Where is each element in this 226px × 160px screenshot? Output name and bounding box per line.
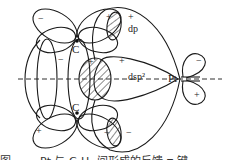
sign-c-top-left-lobe: − — [38, 14, 44, 24]
sign-pt-upper: − — [196, 56, 202, 66]
platinum-label: Pt — [168, 73, 177, 84]
sign-c-top-inner-left: − — [58, 55, 64, 65]
sign-dp-lower: − — [126, 128, 132, 138]
dp-label: dp — [128, 24, 138, 34]
sign-hatched-center: + — [119, 56, 125, 66]
sign-c-bottom-left: + — [36, 126, 42, 136]
carbon-bottom-label: C — [72, 102, 79, 113]
orbital-diagram — [0, 0, 226, 160]
carbon-top-label: C — [72, 44, 79, 55]
sign-pt-lower: + — [194, 90, 200, 100]
sign-c-top-inner-right: + — [88, 57, 94, 67]
hatched-center-lobe — [79, 58, 111, 100]
sign-dp: + — [128, 12, 134, 22]
dsp2-label: dsp² — [128, 72, 145, 82]
sign-c-top-right-upper: + — [106, 12, 112, 22]
figure-caption: 图 …… Pt 与 C₂H₄ 间形成的反馈 π 键 — [0, 152, 226, 160]
sign-c-bottom-right: − — [104, 128, 110, 138]
